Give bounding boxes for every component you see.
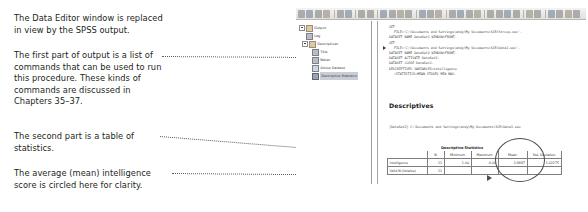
variables-icon[interactable] <box>397 10 404 18</box>
tree-item-label: Log <box>314 32 320 40</box>
table-icon <box>312 73 319 80</box>
promote-icon[interactable] <box>487 10 494 18</box>
descriptives-folder-icon <box>309 41 316 48</box>
demote-icon[interactable] <box>496 10 503 18</box>
select-cases-icon[interactable] <box>457 10 464 18</box>
open-file-icon[interactable] <box>298 10 305 18</box>
find-icon[interactable] <box>405 10 412 18</box>
expand-icon[interactable] <box>504 10 511 18</box>
annotation-line: commands are discussed in <box>14 85 264 97</box>
tree-item-descriptive-statistics[interactable]: Descriptive Statistics <box>298 72 371 80</box>
undo-icon[interactable] <box>358 10 365 18</box>
table-cell <box>527 167 561 175</box>
table-row[interactable]: Intelligence 11 1.00 4.00 2.8887 1.02275 <box>388 159 562 167</box>
annotation-first-part-commands: The first part of output is a list of co… <box>14 50 264 108</box>
table-header-cell: Maximum <box>471 151 498 159</box>
viewer-gutter <box>373 21 378 184</box>
output-folder-icon <box>306 25 313 32</box>
table-cell: 4.00 <box>471 159 498 167</box>
selection-marker-icon <box>383 46 386 50</box>
table-cell <box>498 167 527 175</box>
goto-data-icon[interactable] <box>380 10 387 18</box>
tree-item-log[interactable]: Log <box>298 32 371 40</box>
annotation-line: score is circled here for clarity. <box>14 180 264 192</box>
dataset-icon <box>312 65 319 72</box>
toolbar-separator <box>545 10 546 18</box>
toolbar-separator <box>355 10 356 18</box>
annotation-line: The Data Editor window is replaced <box>14 13 264 25</box>
descriptive-statistics-output[interactable]: Descriptive Statistics N Minimum Maximum… <box>387 146 537 175</box>
help-icon[interactable] <box>573 10 580 18</box>
tree-item-title[interactable]: Title <box>298 48 371 56</box>
table-cell: Valid N (listwise) <box>388 167 428 175</box>
spss-toolbar[interactable] <box>296 8 586 20</box>
output-outline-pane[interactable]: Output Log Descriptives Title Notes Acti… <box>296 21 372 184</box>
insert-heading-icon[interactable] <box>548 10 555 18</box>
tree-item-label: Descriptive Statistics <box>320 72 358 80</box>
annotation-line: Chapters 35–37. <box>14 96 264 108</box>
tree-item-label: Active Dataset <box>320 64 345 72</box>
table-cell: 1.00 <box>444 159 471 167</box>
table-cell: 11 <box>427 159 444 167</box>
toolbar-separator <box>523 10 524 18</box>
insert-cases-icon[interactable] <box>419 10 426 18</box>
table-header-cell: Mean <box>498 151 527 159</box>
spss-output-viewer-window[interactable]: Output Log Descriptives Title Notes Acti… <box>296 8 586 184</box>
tree-toggle-icon[interactable] <box>299 25 305 31</box>
collapse-icon[interactable] <box>513 10 520 18</box>
annotation-column: The Data Editor window is replaced in vi… <box>0 0 294 212</box>
table-caption: Descriptive Statistics <box>387 146 537 150</box>
notes-icon <box>312 57 319 64</box>
table-cell: 11 <box>427 167 444 175</box>
tree-toggle-icon[interactable] <box>302 41 308 47</box>
table-header-cell <box>388 151 428 159</box>
log-icon <box>306 33 313 40</box>
show-icon[interactable] <box>526 10 533 18</box>
table-cell <box>444 167 471 175</box>
insert-variable-icon[interactable] <box>427 10 434 18</box>
value-labels-icon[interactable] <box>466 10 473 18</box>
toolbar-separator <box>446 10 447 18</box>
goto-case-icon[interactable] <box>389 10 396 18</box>
tree-item-label: Title <box>320 48 327 56</box>
output-viewer-pane[interactable]: GET FILE='C:\Documents and Settings\andy… <box>373 21 586 184</box>
recall-dialog-icon[interactable] <box>345 10 352 18</box>
toolbar-separator <box>416 10 417 18</box>
dataset-path-note: [DataSet2] C:\Documents and Settings\and… <box>389 125 521 129</box>
annotation-line: this procedure. These kinds of <box>14 73 264 85</box>
annotation-line: The second part is a table of <box>14 131 264 143</box>
annotation-data-editor-replaced: The Data Editor window is replaced in vi… <box>14 13 264 36</box>
tree-item-output[interactable]: Output <box>298 24 371 32</box>
insert-text-icon[interactable] <box>565 10 572 18</box>
save-icon[interactable] <box>306 10 313 18</box>
annotation-line: commands that can be used to run <box>14 62 264 74</box>
annotation-line: The average (mean) intelligence <box>14 168 264 180</box>
use-sets-icon[interactable] <box>474 10 481 18</box>
table-header-cell: Minimum <box>444 151 471 159</box>
table-row[interactable]: Valid N (listwise) 11 <box>388 167 562 175</box>
title-icon <box>312 49 319 56</box>
annotation-line: in view by the SPSS output. <box>14 25 264 37</box>
print-icon[interactable] <box>315 10 322 18</box>
toolbar-separator <box>377 10 378 18</box>
tree-item-label: Descriptives <box>317 40 338 48</box>
table-cell: 1.02275 <box>527 159 561 167</box>
redo-icon[interactable] <box>367 10 374 18</box>
syntax-log-block: GET FILE='C:\Documents and Settings\andy… <box>389 25 584 77</box>
export-icon[interactable] <box>337 10 344 18</box>
table-cell: Intelligence <box>388 159 428 167</box>
table-header-cell: Std. Deviation <box>527 151 561 159</box>
tree-item-notes[interactable]: Notes <box>298 56 371 64</box>
descriptive-statistics-table[interactable]: N Minimum Maximum Mean Std. Deviation In… <box>387 151 562 175</box>
annotation-mean-circled: The average (mean) intelligence score is… <box>14 168 264 191</box>
table-header-row: N Minimum Maximum Mean Std. Deviation <box>388 151 562 159</box>
tree-item-descriptives[interactable]: Descriptives <box>298 40 371 48</box>
tree-item-label: Output <box>314 24 326 32</box>
print-preview-icon[interactable] <box>323 10 330 18</box>
hide-icon[interactable] <box>534 10 541 18</box>
tree-item-label: Notes <box>320 56 330 64</box>
tree-item-active-dataset[interactable]: Active Dataset <box>298 64 371 72</box>
split-file-icon[interactable] <box>435 10 442 18</box>
insert-title-icon[interactable] <box>556 10 563 18</box>
weight-cases-icon[interactable] <box>449 10 456 18</box>
